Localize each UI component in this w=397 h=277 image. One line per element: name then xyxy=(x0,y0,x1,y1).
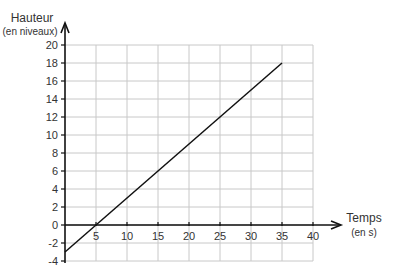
y-tick-label: 2 xyxy=(52,201,58,213)
x-tick-label: 30 xyxy=(245,230,257,242)
y-tick-label: 10 xyxy=(46,129,58,141)
x-tick-label: 20 xyxy=(183,230,195,242)
x-tick-label: 40 xyxy=(307,230,319,242)
y-tick-label: 12 xyxy=(46,111,58,123)
axes xyxy=(61,23,341,263)
x-tick-label: 35 xyxy=(276,230,288,242)
x-tick-label: 5 xyxy=(93,230,99,242)
x-axis-unit: (en s) xyxy=(351,227,377,238)
y-tick-label: 20 xyxy=(46,39,58,51)
y-tick-label: 0 xyxy=(52,219,58,231)
y-axis-title: Hauteur xyxy=(11,11,54,25)
x-tick-label: 25 xyxy=(214,230,226,242)
line-chart: -4-202468101214161820510152025303540 Hau… xyxy=(0,0,397,277)
y-tick-label: -2 xyxy=(48,237,58,249)
y-tick-label: 6 xyxy=(52,165,58,177)
grid xyxy=(65,45,313,261)
y-tick-label: 8 xyxy=(52,147,58,159)
y-tick-label: 14 xyxy=(46,93,58,105)
y-tick-label: 16 xyxy=(46,75,58,87)
y-tick-label: -4 xyxy=(48,255,58,267)
y-axis-unit: (en niveaux) xyxy=(2,26,57,37)
series-line xyxy=(65,63,282,252)
data-series xyxy=(65,63,282,252)
y-tick-label: 4 xyxy=(52,183,58,195)
x-axis-title: Temps xyxy=(346,211,381,225)
x-tick-label: 10 xyxy=(121,230,133,242)
y-tick-label: 18 xyxy=(46,57,58,69)
x-tick-label: 15 xyxy=(152,230,164,242)
